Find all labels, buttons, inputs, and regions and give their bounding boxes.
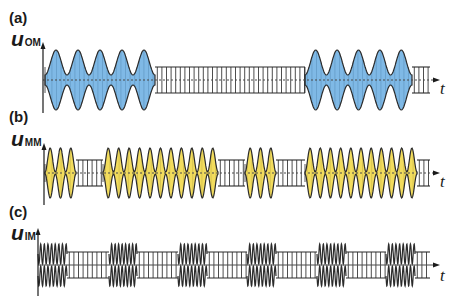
time-axis-arrow-icon xyxy=(433,78,440,83)
im-burst-wave-top xyxy=(178,244,207,264)
panel-b-ylabel-main: u xyxy=(11,127,24,150)
im-burst-wave-bottom xyxy=(109,266,137,286)
amplitude-axis-arrow-icon xyxy=(42,143,47,150)
im-burst-wave-bottom xyxy=(386,266,415,286)
panel-a-xlabel: t xyxy=(440,79,445,99)
im-burst-wave-bottom xyxy=(247,266,276,286)
panel-a-ylabel-sub: OM xyxy=(25,37,41,48)
panel-b-label: (b) xyxy=(9,108,28,125)
im-burst-wave-bottom xyxy=(38,266,67,286)
im-burst-wave-top xyxy=(247,244,276,264)
time-axis-arrow-icon xyxy=(433,263,440,268)
panel-a-ylabel-main: u xyxy=(11,27,24,50)
panel-c-ylabel-sub: IM xyxy=(25,231,36,242)
panel-c-ylabel: uIM xyxy=(11,222,36,243)
im-burst-wave-bottom xyxy=(317,266,346,286)
panel-c-label: (c) xyxy=(9,203,27,220)
im-burst-wave-bottom xyxy=(178,266,207,286)
panel-a-ylabel: uOM xyxy=(11,28,41,49)
im-burst-wave-top xyxy=(109,244,137,264)
im-burst-wave-top xyxy=(386,244,415,264)
panel-b-ylabel: uMM xyxy=(11,128,42,149)
carrier-hatch xyxy=(220,160,243,186)
waveform-plot xyxy=(0,0,463,305)
im-burst-wave-top xyxy=(317,244,346,264)
im-burst-wave-top xyxy=(38,244,67,264)
time-axis-arrow-icon xyxy=(433,171,440,176)
panel-c-ylabel-main: u xyxy=(11,221,24,244)
amplitude-axis-arrow-icon xyxy=(36,228,41,235)
panel-b-xlabel: t xyxy=(440,172,445,192)
panel-a-label: (a) xyxy=(9,9,27,26)
panel-c-xlabel: t xyxy=(440,266,445,286)
waveform-figure: (a) uOM t (b) uMM t (c) uIM t xyxy=(0,0,463,305)
panel-b-ylabel-sub: MM xyxy=(25,137,42,148)
amplitude-axis-arrow-icon xyxy=(41,42,46,49)
